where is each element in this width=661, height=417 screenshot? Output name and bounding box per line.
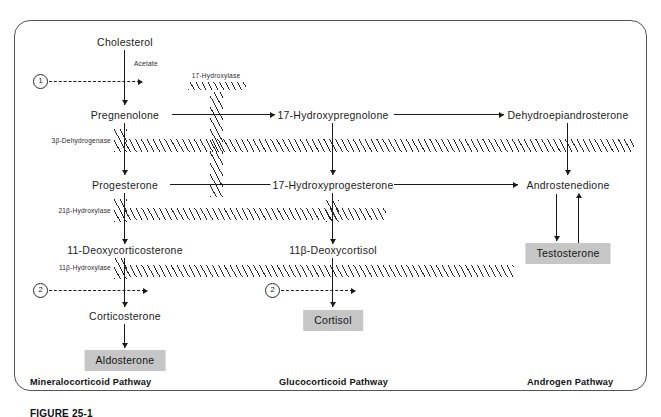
arrowhead-pregnenolone-progesterone [122, 170, 128, 175]
label-21b-hydroxylase: 21β-Hydroxylase [57, 207, 112, 215]
label-11b-hydroxylase: 11β-Hydroxylase [58, 264, 112, 272]
hatch-block-17-hydroxylase-lower [210, 152, 223, 197]
node-testosterone: Testosterone [525, 243, 610, 264]
arrowhead-testosterone-androstenedione-up [576, 193, 582, 198]
node-corticosterone: Corticosterone [87, 310, 163, 322]
arrowhead-hydroxyprogesterone-androstenedione [513, 182, 518, 188]
dashed-edge-step-2-mineralocorticoid [49, 290, 145, 291]
arrowhead-deoxycortisol-cortisol [330, 302, 336, 307]
arrowhead-corticosterone-aldosterone [122, 343, 128, 348]
edge-hydroxyprogesterone-androstenedione [394, 184, 518, 185]
node-cortisol: Cortisol [303, 310, 363, 331]
arrowhead-step-1 [138, 79, 143, 85]
edge-dhea-androstenedione [567, 123, 568, 175]
edge-androstenedione-testosterone-down [556, 194, 557, 241]
hatch-band-upper [124, 139, 634, 152]
dashed-edge-step-2-glucocorticoid [281, 290, 353, 291]
node-17-hydroxyprogesterone: 17-Hydroxyprogesterone [270, 179, 395, 191]
edge-pregnenolone-hydroxypregnolone [172, 114, 275, 115]
arrowhead-hydroxypregnolone-dhea [499, 112, 504, 118]
node-dehydroepiandrosterone: Dehydroepiandrosterone [505, 109, 630, 121]
arrowhead-step-2-glucocorticoid [351, 288, 356, 294]
step-marker-2-mineralocorticoid: 2 [33, 283, 48, 298]
pathway-label-androgen: Androgen Pathway [527, 377, 613, 387]
label-3b-dehydrogenase: 3β-Dehydrogenase [51, 137, 112, 145]
hatch-block-17-hydroxylase-upper [210, 92, 223, 152]
node-11-deoxycorticosterone: 11-Deoxycorticosterone [65, 244, 185, 256]
hatch-band-lower [124, 265, 514, 277]
step-marker-2-glucocorticoid: 2 [265, 283, 280, 298]
arrowhead-deoxycorticosterone-corticosterone [122, 302, 128, 307]
edge-hydroxypregnolone-dhea [394, 114, 504, 115]
edge-testosterone-androstenedione-up [578, 198, 579, 243]
edge-hydroxypregnolone-hydroxyprogesterone [332, 123, 333, 175]
edge-progesterone-hydroxyprogesterone [170, 184, 278, 185]
step-marker-1: 1 [33, 74, 48, 89]
pathway-label-mineralocorticoid: Mineralocorticoid Pathway [30, 377, 151, 387]
pathway-label-glucocorticoid: Glucocorticoid Pathway [279, 377, 388, 387]
hatch-block-17-hydroxylase-top [188, 82, 246, 90]
node-pregnenolone: Pregnenolone [89, 109, 161, 121]
hatch-block-21b-hydroxylase-gluco [326, 200, 339, 222]
node-progesterone: Progesterone [90, 179, 160, 191]
arrowhead-dhea-androstenedione [565, 170, 571, 175]
node-11b-deoxycortisol: 11β-Deoxycortisol [287, 244, 379, 256]
edge-deoxycortisol-cortisol [332, 258, 333, 307]
arrowhead-step-2-mineralocorticoid [143, 288, 148, 294]
arrowhead-androstenedione-testosterone-down [554, 236, 560, 241]
edge-cholesterol-pregnenolone [124, 50, 125, 105]
arrowhead-pregnenolone-hydroxypregnolone [270, 112, 275, 118]
arrowhead-hydroxypregnolone-hydroxyprogesterone [330, 170, 336, 175]
label-acetate: Acetate [133, 60, 159, 68]
hatch-band-middle [124, 208, 386, 220]
node-aldosterone: Aldosterone [85, 350, 166, 371]
figure-caption: FIGURE 25-1 [30, 408, 93, 417]
figure-container: Cholesterol Acetate 1 Pregnenolone 3β-De… [0, 0, 661, 417]
label-17-hydroxylase: 17-Hydroxylase [191, 72, 242, 80]
dashed-edge-step-1 [49, 81, 140, 82]
node-cholesterol: Cholesterol [95, 36, 155, 48]
node-androstenedione: Androstenedione [524, 179, 611, 191]
arrowhead-cholesterol-pregnenolone [122, 100, 128, 105]
node-17-hydroxypregnolone: 17-Hydroxypregnolone [275, 109, 390, 121]
